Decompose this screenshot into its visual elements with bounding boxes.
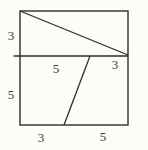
label-bottom-right-segment: 5: [97, 130, 109, 144]
square-dissection-figure: [0, 0, 148, 150]
label-divider-left-segment: 5: [50, 62, 62, 76]
label-left-bottom-segment: 5: [5, 88, 17, 102]
label-left-top-segment: 3: [5, 29, 17, 43]
figure-canvas: 3 5 5 3 3 5: [0, 0, 148, 150]
label-bottom-left-segment: 3: [35, 131, 47, 145]
bottom-slant-line: [64, 56, 90, 125]
top-diagonal-line: [20, 11, 128, 55]
label-divider-right-segment: 3: [109, 58, 121, 72]
